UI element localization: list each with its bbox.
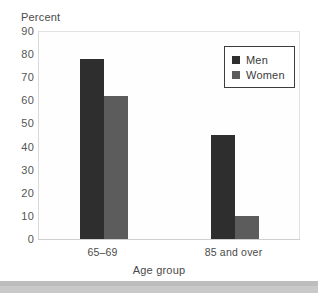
bottom-strip-highlight [0, 281, 318, 286]
y-axis-tick-label: 80 [0, 48, 34, 60]
y-axis-tick-label: 20 [0, 187, 34, 199]
y-axis-tick-label: 0 [0, 233, 34, 245]
legend-swatch-icon [232, 71, 240, 79]
y-axis-tick-label: 70 [0, 71, 34, 83]
bar-women-1 [235, 216, 259, 239]
y-axis-tick-label: 30 [0, 164, 34, 176]
bar-men-0 [80, 59, 104, 239]
legend-item-men: Men [232, 52, 285, 67]
y-axis-tick-label: 50 [0, 117, 34, 129]
x-axis-line [38, 239, 300, 240]
legend-item-women: Women [232, 67, 285, 82]
legend-swatch-icon [232, 56, 240, 64]
bar-men-1 [211, 135, 235, 239]
y-axis-tick-label: 90 [0, 25, 34, 37]
bottom-strip [0, 281, 318, 293]
x-axis-tick-label: 85 and over [205, 246, 263, 258]
bar-chart-figure: Percent 0102030405060708090 65–6985 and … [0, 0, 318, 293]
legend-label: Women [246, 69, 285, 81]
bar-women-0 [104, 96, 128, 239]
y-axis-tick-label: 60 [0, 94, 34, 106]
bar-group [80, 31, 128, 239]
chart-legend: MenWomen [224, 46, 295, 88]
y-axis-tick-labels: 0102030405060708090 [0, 0, 34, 293]
y-axis-tick-label: 10 [0, 210, 34, 222]
x-axis-tick-label: 65–69 [87, 246, 117, 258]
y-axis-tick-label: 40 [0, 141, 34, 153]
legend-label: Men [246, 54, 268, 66]
x-axis-title: Age group [0, 264, 318, 276]
